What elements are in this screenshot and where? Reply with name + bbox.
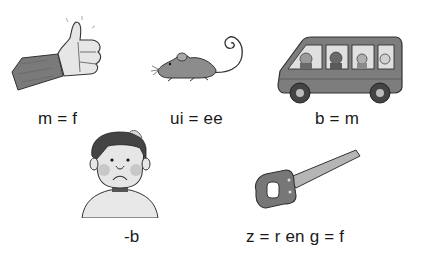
bus-picture bbox=[274, 33, 406, 105]
sad-boy-picture bbox=[80, 130, 160, 218]
rule-label-mouse: ui = ee bbox=[170, 110, 223, 128]
rule-label-bus: b = m bbox=[315, 110, 359, 128]
mouse-picture bbox=[150, 28, 250, 88]
thumb-up-picture bbox=[8, 14, 103, 94]
rule-label-saw: z = r en g = f bbox=[246, 228, 344, 246]
rule-label-boy: -b bbox=[124, 228, 140, 246]
rule-label-thumb: m = f bbox=[38, 110, 77, 128]
saw-picture bbox=[252, 146, 362, 216]
